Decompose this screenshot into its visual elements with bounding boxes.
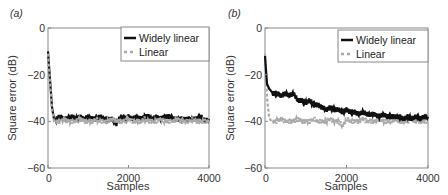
panel-b-label: (b) — [228, 7, 241, 19]
x-tick-label: 4000 — [416, 172, 440, 184]
y-tick-label: 0 — [256, 22, 262, 34]
panel-b-xlabel: Samples — [325, 180, 368, 192]
x-tick-label: 0 — [46, 172, 52, 184]
panel-b-ylabel: Square error (dB) — [224, 55, 236, 141]
x-tick-label: 4000 — [197, 172, 221, 184]
panel-a-ylabel: Square error (dB) — [6, 55, 18, 141]
y-tick-label: −40 — [27, 115, 45, 127]
y-tick-label: −20 — [27, 69, 45, 81]
y-tick-label: −20 — [244, 69, 262, 81]
y-tick-label: −60 — [244, 162, 262, 174]
panel-b-legend: Widely linear Linear — [338, 30, 428, 62]
panel-b-yticks: 0−20−40−60 — [244, 22, 268, 174]
panel-a-legend: Widely linear Linear — [121, 27, 209, 61]
panel-a-label: (a) — [10, 7, 23, 19]
legend-label-linear: Linear — [139, 46, 169, 58]
figure: (a) 0−20−40−60 020004000 Samples Square … — [0, 0, 448, 195]
panel-a: (a) 0−20−40−60 020004000 Samples Square … — [6, 7, 221, 192]
y-tick-label: −40 — [244, 115, 262, 127]
legend-label-widely-linear: Widely linear — [139, 32, 200, 44]
y-tick-label: 0 — [39, 22, 45, 34]
y-tick-label: −60 — [27, 162, 45, 174]
x-tick-label: 0 — [263, 172, 269, 184]
legend-label-linear: Linear — [356, 48, 386, 60]
legend-label-widely-linear: Widely linear — [356, 34, 417, 46]
panel-a-xlabel: Samples — [107, 180, 150, 192]
panel-a-yticks: 0−20−40−60 — [27, 22, 51, 174]
panel-b: (b) 0−20−40−60 020004000 Samples Square … — [224, 7, 440, 192]
